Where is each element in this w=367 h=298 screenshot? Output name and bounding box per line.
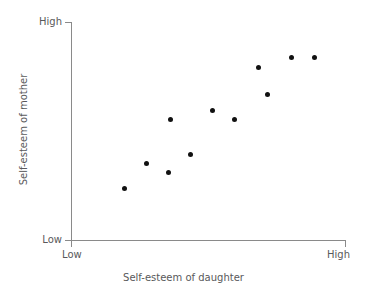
data-point [210, 108, 215, 113]
data-point [265, 92, 270, 97]
y-axis-tick-label-low: Low [42, 234, 62, 245]
data-point [256, 65, 261, 70]
x-axis-tick-label-low: Low [62, 249, 82, 260]
data-point [144, 161, 149, 166]
plot-area [71, 22, 346, 241]
data-point [122, 186, 127, 191]
scatter-plot-figure: High Low Low High Self-esteem of daughte… [0, 0, 367, 298]
data-point [289, 55, 294, 60]
x-axis-tick-label-high: High [327, 249, 350, 260]
y-axis-title: Self-esteem of mother [18, 60, 29, 200]
data-point [168, 117, 173, 122]
data-point [232, 117, 237, 122]
y-axis-tick-label-high: High [39, 16, 62, 27]
x-axis-tick-low [71, 240, 72, 247]
data-point [312, 55, 317, 60]
x-axis-title: Self-esteem of daughter [0, 272, 367, 283]
x-axis-tick-high [345, 240, 346, 247]
data-point [188, 152, 193, 157]
data-point [166, 170, 171, 175]
